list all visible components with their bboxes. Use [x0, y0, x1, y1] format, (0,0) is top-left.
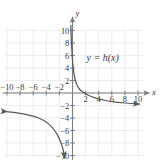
- x-tick-label: 6: [110, 95, 114, 104]
- y-tick-label: 6: [65, 52, 69, 61]
- function-annotation: y = h(x): [85, 52, 119, 64]
- function-curve: [7, 26, 139, 159]
- coordinate-plane: −10−8−6−4−2246810 108642−2−4−6−8−10 xy y…: [0, 0, 168, 162]
- graph-figure: −10−8−6−4−2246810 108642−2−4−6−8−10 xy y…: [0, 0, 168, 162]
- x-tick-label: −4: [42, 83, 52, 92]
- x-tick-label: −2: [55, 83, 64, 92]
- y-tick-label: −2: [60, 102, 69, 111]
- x-tick-label: −6: [29, 83, 38, 92]
- x-axis-name: x: [151, 87, 156, 97]
- y-tick-label: −6: [60, 127, 69, 136]
- x-tick-label: 2: [84, 95, 88, 104]
- x-tick-label: 10: [134, 95, 142, 104]
- y-tick-label: 4: [65, 64, 70, 73]
- y-tick-label: 2: [65, 77, 69, 86]
- function-label: y = h(x): [85, 52, 119, 64]
- y-axis-name: y: [75, 8, 80, 18]
- curve-branch: [71, 26, 139, 105]
- y-tick-label: −10: [56, 152, 69, 161]
- y-tick-label: −4: [60, 114, 70, 123]
- y-tick-label: 10: [61, 27, 69, 36]
- x-tick-label: −10: [0, 83, 13, 92]
- y-tick-label: 8: [65, 39, 69, 48]
- x-tick-label: −8: [16, 83, 25, 92]
